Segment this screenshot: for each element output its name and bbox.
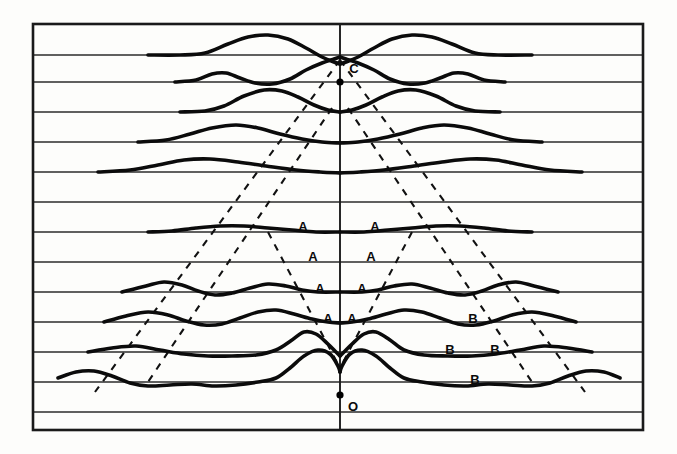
annotation-b-8: B [468,311,477,326]
annotation-b-10: B [490,342,499,357]
annotation-a-6: A [323,311,333,326]
annotation-a-4: A [315,281,325,296]
annotation-a-1: A [370,219,380,234]
figure-container: CO AAAAAAAABBBB [0,0,677,454]
annotation-a-3: A [366,249,376,264]
annotation-a-5: A [357,281,367,296]
point-marker-c [336,78,343,85]
seismic-trace-figure: CO AAAAAAAABBBB [0,0,677,454]
point-marker-o [336,391,343,398]
annotation-a-7: A [347,311,357,326]
point-label-o: O [348,399,358,414]
point-label-c: C [349,61,359,76]
annotation-a-0: A [298,219,308,234]
figure-background [0,0,677,454]
annotation-a-2: A [308,249,318,264]
annotation-b-11: B [470,372,479,387]
annotation-b-9: B [445,342,454,357]
